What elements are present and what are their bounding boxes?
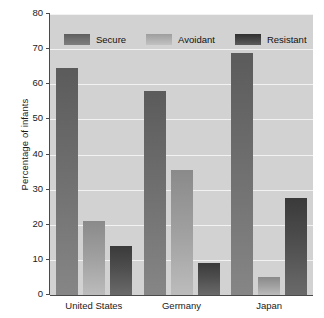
x-axis-label-germany: Germany bbox=[162, 300, 201, 311]
gridline bbox=[50, 84, 313, 85]
legend-item-secure[interactable]: Secure bbox=[64, 34, 126, 45]
y-axis-tick-label: 10 bbox=[32, 253, 43, 264]
bar-united-states-avoidant bbox=[83, 221, 105, 295]
y-axis: 01020304050607080 bbox=[0, 14, 50, 295]
y-axis-tick-label: 50 bbox=[32, 112, 43, 123]
y-axis-tick-label: 80 bbox=[32, 7, 43, 18]
y-axis-tick-label: 0 bbox=[38, 288, 43, 299]
gridline bbox=[50, 14, 313, 15]
bar-germany-avoidant bbox=[171, 170, 193, 295]
y-axis-tick-label: 70 bbox=[32, 42, 43, 53]
bar-united-states-resistant bbox=[110, 246, 132, 295]
legend-item-avoidant[interactable]: Avoidant bbox=[146, 34, 215, 45]
gridline bbox=[50, 49, 313, 50]
x-axis-label-united-states: United States bbox=[65, 300, 122, 311]
y-axis-tick-label: 20 bbox=[32, 218, 43, 229]
legend-swatch-resistant bbox=[235, 34, 261, 45]
bar-japan-resistant bbox=[285, 198, 307, 295]
chart-legend: SecureAvoidantResistant bbox=[64, 34, 307, 45]
bar-united-states-secure bbox=[56, 68, 78, 295]
bar-chart-figure: Percentage of infants 01020304050607080 … bbox=[0, 0, 324, 318]
x-axis-label-japan: Japan bbox=[256, 300, 282, 311]
legend-swatch-secure bbox=[64, 34, 90, 45]
y-axis-tick-label: 40 bbox=[32, 148, 43, 159]
legend-label-avoidant: Avoidant bbox=[178, 34, 215, 45]
x-axis-line bbox=[50, 295, 313, 296]
y-axis-tick-label: 60 bbox=[32, 77, 43, 88]
bar-japan-avoidant bbox=[258, 277, 280, 295]
gridline bbox=[50, 155, 313, 156]
bar-germany-secure bbox=[144, 91, 166, 295]
legend-label-secure: Secure bbox=[96, 34, 126, 45]
legend-label-resistant: Resistant bbox=[267, 34, 307, 45]
legend-item-resistant[interactable]: Resistant bbox=[235, 34, 307, 45]
bar-japan-secure bbox=[231, 53, 253, 295]
y-axis-tick-label: 30 bbox=[32, 183, 43, 194]
gridline bbox=[50, 119, 313, 120]
bar-germany-resistant bbox=[198, 263, 220, 295]
plot-area: SecureAvoidantResistant bbox=[50, 14, 313, 295]
legend-swatch-avoidant bbox=[146, 34, 172, 45]
